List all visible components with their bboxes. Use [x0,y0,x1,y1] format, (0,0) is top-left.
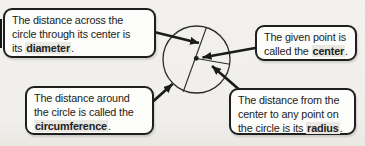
callout-diameter: The distance across the circle through i… [3,8,156,58]
callout-circumference: The distance around the circle is called… [25,86,154,135]
callout-circumference-line2: the circle is called the [34,105,148,119]
callout-radius-line2: center to any point on [238,107,350,121]
callout-radius-line3: the circle is its radius. [238,121,350,135]
callout-text-pre: its [12,42,25,54]
callout-text-post: . [108,120,111,132]
key-term-radius: radius [306,122,340,134]
callout-center: The given point is called the center. [255,25,357,61]
callout-text-post: . [345,45,348,57]
callout-diameter-line2: circle through its center is [12,27,150,41]
callout-radius: The distance from the center to any poin… [229,88,356,135]
callout-radius-line1: The distance from the [238,93,350,107]
callout-circumference-line1: The distance around [34,91,148,105]
callout-text-pre: called the [264,45,312,57]
callout-center-line1: The given point is [264,30,351,44]
callout-center-line2: called the center. [264,44,351,58]
radius-line [197,59,230,65]
callout-text-pre: the circle is its [238,122,306,134]
callout-diameter-line1: The distance across the [12,13,150,27]
key-term-diameter: diameter [25,42,71,54]
callout-diameter-line3: its diameter. [12,41,150,55]
callout-text-post: . [340,122,343,134]
callout-circumference-line3: circumference. [34,119,148,133]
circle-vocabulary-diagram: The distance across the circle through i… [0,0,365,146]
callout-text-post: . [71,42,74,54]
center-dot [194,56,199,61]
key-term-circumference: circumference [34,120,108,132]
key-term-center: center [312,45,346,57]
page-edge-mark [0,19,2,48]
